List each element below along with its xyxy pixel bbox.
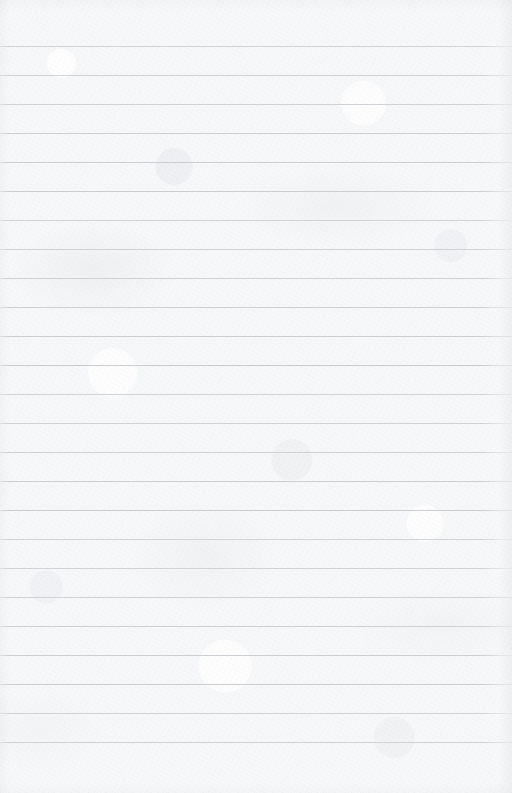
rule-line <box>0 220 512 221</box>
sheet-edge-vignette <box>0 0 512 793</box>
rule-line <box>0 46 512 47</box>
rule-line <box>0 249 512 250</box>
rule-line <box>0 423 512 424</box>
rule-line <box>0 597 512 598</box>
rule-line <box>0 191 512 192</box>
paper-texture-fibers <box>0 0 512 793</box>
rule-line <box>0 394 512 395</box>
rule-line <box>0 655 512 656</box>
rule-line <box>0 278 512 279</box>
rule-line <box>0 75 512 76</box>
rule-line <box>0 713 512 714</box>
rule-line <box>0 626 512 627</box>
rule-line <box>0 539 512 540</box>
rule-line <box>0 510 512 511</box>
rule-line <box>0 162 512 163</box>
rule-line <box>0 684 512 685</box>
rule-line <box>0 365 512 366</box>
rule-line <box>0 452 512 453</box>
rule-line <box>0 742 512 743</box>
paper-texture-shading <box>0 0 512 793</box>
paper-texture-blotches <box>0 0 512 793</box>
bottom-margin-area <box>0 742 512 793</box>
rule-line <box>0 336 512 337</box>
rule-line <box>0 481 512 482</box>
rule-line <box>0 133 512 134</box>
rule-line <box>0 104 512 105</box>
top-margin-area <box>0 0 512 46</box>
rule-line <box>0 307 512 308</box>
rule-line-group <box>0 0 512 793</box>
rule-line <box>0 568 512 569</box>
ruled-paper-sheet <box>0 0 512 793</box>
